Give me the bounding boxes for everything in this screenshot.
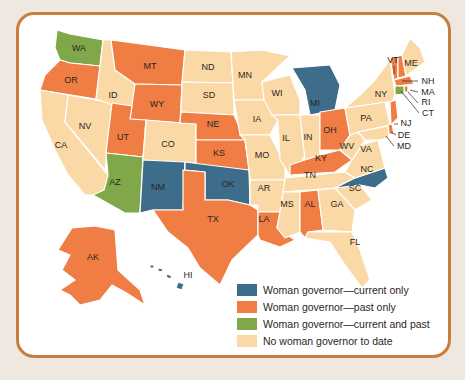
svg-text:MS: MS [280, 199, 294, 209]
svg-text:IL: IL [282, 133, 290, 143]
legend-label: No woman governor to date [263, 335, 393, 347]
svg-text:MD: MD [397, 141, 411, 151]
svg-text:MI: MI [310, 98, 320, 108]
svg-text:CO: CO [161, 139, 175, 149]
svg-text:SD: SD [203, 90, 216, 100]
legend-label: Woman governor—past only [263, 301, 396, 313]
svg-text:NM: NM [151, 182, 165, 192]
legend-label: Woman governor—current and past [263, 318, 430, 330]
svg-text:NY: NY [375, 89, 388, 99]
svg-text:MA: MA [421, 87, 435, 97]
svg-text:MT: MT [144, 61, 157, 71]
svg-text:WI: WI [272, 88, 283, 98]
legend-swatch [237, 284, 257, 296]
legend: Woman governor—current only Woman govern… [237, 282, 430, 350]
state-hi[interactable] [150, 265, 184, 290]
svg-text:AK: AK [87, 252, 99, 262]
legend-swatch [237, 318, 257, 330]
svg-text:PA: PA [360, 113, 371, 123]
state-nj[interactable] [390, 100, 398, 125]
svg-text:TX: TX [207, 214, 219, 224]
svg-text:ID: ID [109, 90, 119, 100]
svg-text:NJ: NJ [401, 118, 412, 128]
svg-text:CT: CT [422, 108, 434, 118]
legend-label: Woman governor—current only [263, 284, 409, 296]
svg-text:ND: ND [202, 62, 215, 72]
svg-text:KS: KS [213, 148, 225, 158]
svg-text:MO: MO [255, 150, 270, 160]
legend-swatch [237, 301, 257, 313]
svg-text:NH: NH [422, 76, 435, 86]
legend-swatch [237, 335, 257, 347]
svg-text:SC: SC [349, 183, 362, 193]
svg-text:RI: RI [422, 97, 431, 107]
svg-text:UT: UT [117, 132, 129, 142]
svg-text:AZ: AZ [109, 177, 121, 187]
legend-item-none: No woman governor to date [237, 333, 430, 349]
svg-text:VT: VT [387, 55, 399, 65]
svg-text:NE: NE [207, 119, 220, 129]
state-ak[interactable] [58, 226, 145, 305]
svg-text:KY: KY [315, 153, 327, 163]
svg-text:AR: AR [258, 183, 271, 193]
svg-text:TN: TN [304, 170, 316, 180]
svg-text:NV: NV [79, 121, 92, 131]
svg-text:FL: FL [350, 237, 361, 247]
svg-text:AL: AL [304, 199, 315, 209]
state-me[interactable] [402, 38, 425, 76]
legend-item-current-only: Woman governor—current only [237, 282, 430, 298]
svg-text:WA: WA [72, 43, 86, 53]
svg-text:WY: WY [150, 99, 165, 109]
svg-text:LA: LA [258, 214, 269, 224]
svg-text:GA: GA [330, 199, 343, 209]
svg-text:MN: MN [238, 70, 252, 80]
svg-text:OH: OH [323, 125, 337, 135]
svg-text:OR: OR [64, 75, 78, 85]
svg-text:IA: IA [253, 114, 262, 124]
state-ct[interactable] [395, 86, 404, 95]
svg-text:WV: WV [340, 141, 355, 151]
svg-text:DE: DE [398, 130, 411, 140]
svg-text:HI: HI [184, 270, 193, 280]
svg-text:NC: NC [361, 164, 374, 174]
state-ny[interactable] [345, 60, 395, 108]
svg-text:VA: VA [360, 144, 371, 154]
svg-text:ME: ME [404, 58, 418, 68]
legend-item-past-only: Woman governor—past only [237, 299, 430, 315]
svg-text:OK: OK [221, 179, 234, 189]
legend-item-current-and-past: Woman governor—current and past [237, 316, 430, 332]
svg-text:CA: CA [55, 140, 68, 150]
svg-text:IN: IN [304, 132, 313, 142]
